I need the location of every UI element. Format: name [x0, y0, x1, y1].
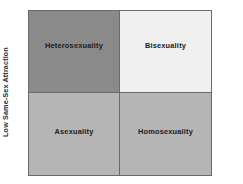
quadrant-figure: Low Same-Sex Attraction High Same-Sex At… [0, 0, 243, 184]
axis-label-left-text: Low Same-Sex Attraction [2, 47, 9, 137]
quadrant-bottom-right: Homosexuality [120, 93, 211, 175]
quadrant-bottom-left: Asexuality [29, 93, 120, 175]
quadrant-label-heterosexuality: Heterosexuality [45, 41, 103, 50]
quadrant-top-right: Bisexuality [120, 11, 211, 93]
quadrant-label-homosexuality: Homosexuality [138, 127, 193, 136]
quadrant-label-asexuality: Asexuality [55, 127, 94, 136]
quadrant-matrix: Heterosexuality Bisexuality Asexuality H… [28, 10, 212, 176]
quadrant-label-bisexuality: Bisexuality [145, 41, 186, 50]
axis-label-left: Low Same-Sex Attraction [0, 0, 12, 184]
quadrant-top-left: Heterosexuality [29, 11, 120, 93]
